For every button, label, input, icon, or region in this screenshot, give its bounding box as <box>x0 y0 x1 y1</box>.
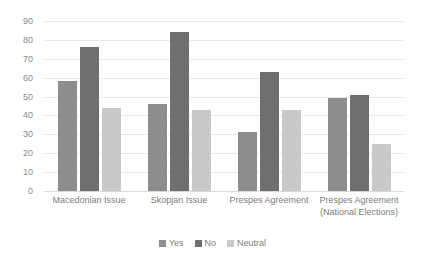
y-axis-tick-label: 10 <box>23 168 33 177</box>
x-axis-label-line: Prespes Agreement <box>314 194 404 206</box>
x-axis-label-line: Skopjan Issue <box>134 194 224 206</box>
bar-group <box>314 21 404 191</box>
x-axis-label-line: Macedonian Issue <box>44 194 134 206</box>
axis-baseline <box>44 191 404 192</box>
bar[interactable] <box>282 110 301 191</box>
bar[interactable] <box>372 144 391 191</box>
x-axis-category-label: Macedonian Issue <box>44 194 134 206</box>
legend-item-label: No <box>205 239 217 248</box>
y-axis-tick-label: 30 <box>23 130 33 139</box>
bar[interactable] <box>102 108 121 191</box>
y-axis-tick-label: 50 <box>23 92 33 101</box>
bar[interactable] <box>238 132 257 191</box>
y-axis: 9080706050403020100 <box>0 21 40 191</box>
x-axis-label-line: (National Elections) <box>314 206 404 218</box>
legend-item[interactable]: Neutral <box>227 239 266 248</box>
legend-swatch-icon <box>195 240 202 247</box>
legend-item[interactable]: Yes <box>159 239 184 248</box>
y-axis-tick-label: 20 <box>23 149 33 158</box>
bar[interactable] <box>148 104 167 191</box>
y-axis-tick-label: 70 <box>23 54 33 63</box>
bar-chart: 9080706050403020100 Macedonian IssueSkop… <box>0 0 425 261</box>
y-axis-tick-label: 0 <box>28 187 33 196</box>
bars-layer <box>44 21 404 191</box>
bar-group <box>224 21 314 191</box>
bar-group <box>134 21 224 191</box>
legend-item-label: Yes <box>169 239 184 248</box>
bar[interactable] <box>260 72 279 191</box>
y-axis-tick-label: 40 <box>23 111 33 120</box>
x-axis-category-label: Prespes Agreement(National Elections) <box>314 194 404 218</box>
y-axis-tick-label: 90 <box>23 17 33 26</box>
bar[interactable] <box>80 47 99 191</box>
x-axis-category-label: Skopjan Issue <box>134 194 224 206</box>
x-axis: Macedonian IssueSkopjan IssuePrespes Agr… <box>44 194 404 234</box>
legend-item[interactable]: No <box>195 239 217 248</box>
bar[interactable] <box>192 110 211 191</box>
bar[interactable] <box>328 98 347 191</box>
legend-item-label: Neutral <box>237 239 266 248</box>
y-axis-tick-label: 60 <box>23 73 33 82</box>
x-axis-category-label: Prespes Agreement <box>224 194 314 206</box>
chart-legend: YesNoNeutral <box>0 239 425 248</box>
legend-swatch-icon <box>159 240 166 247</box>
bar-group <box>44 21 134 191</box>
bar[interactable] <box>350 95 369 191</box>
bar[interactable] <box>170 32 189 191</box>
legend-swatch-icon <box>227 240 234 247</box>
bar[interactable] <box>58 81 77 191</box>
y-axis-tick-label: 80 <box>23 35 33 44</box>
x-axis-label-line: Prespes Agreement <box>224 194 314 206</box>
